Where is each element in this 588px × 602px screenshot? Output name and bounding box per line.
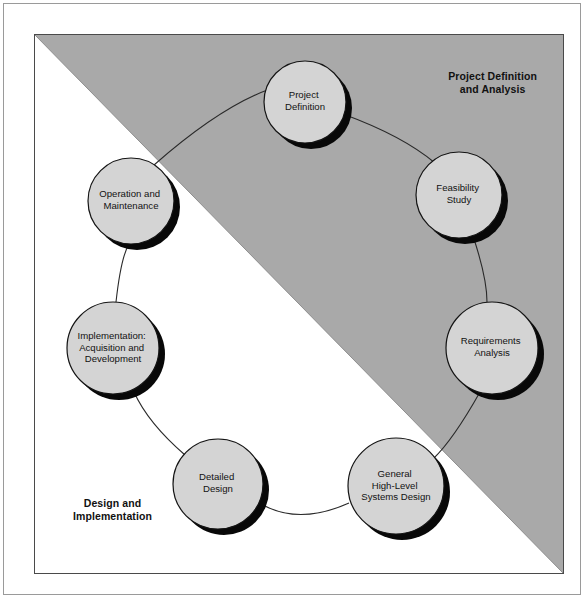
node-label: Operation and Maintenance — [99, 188, 162, 211]
systems-development-lifecycle-diagram: Project Definition Feasibility Study — [35, 35, 563, 573]
zone-label-design-and-implementation: Design and Implementation — [73, 497, 152, 523]
connector-arc — [263, 503, 349, 515]
node-label: Project Definition — [285, 89, 325, 112]
node-project-definition[interactable]: Project Definition — [264, 61, 346, 143]
outer-frame-border: Project Definition Feasibility Study — [3, 3, 581, 595]
diagram-frame: Project Definition Feasibility Study — [34, 34, 564, 574]
diagram-page: Project Definition Feasibility Study — [0, 0, 588, 602]
node-label: Implementation: Acquisition and Developm… — [78, 330, 149, 364]
node-detailed-design[interactable]: Detailed Design — [173, 439, 263, 529]
node-requirements-analysis[interactable]: Requirements Analysis — [446, 302, 538, 394]
zone-label-project-definition-and-analysis: Project Definition and Analysis — [448, 70, 537, 96]
node-feasibility-study[interactable]: Feasibility Study — [416, 152, 502, 238]
connector-arc — [116, 244, 129, 302]
node-general-high-level-systems-design[interactable]: General High-Level Systems Design — [348, 438, 444, 534]
node-implementation-acquisition-and-development[interactable]: Implementation: Acquisition and Developm… — [67, 302, 159, 394]
node-operation-and-maintenance[interactable]: Operation and Maintenance — [88, 158, 174, 244]
connector-arc — [134, 392, 185, 455]
node-label: Detailed Design — [199, 471, 237, 494]
